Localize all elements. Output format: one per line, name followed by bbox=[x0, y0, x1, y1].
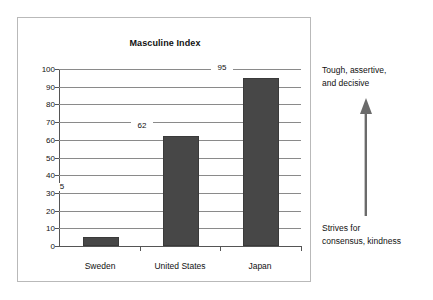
category-label-united-states: United States bbox=[140, 261, 220, 271]
annotation-bottom-text: Strives for consensus, kindness bbox=[322, 222, 430, 248]
up-arrow-icon bbox=[358, 98, 374, 216]
annotation-top-text: Tough, assertive, and decisive bbox=[322, 64, 430, 90]
bar-value-united-states: 62 bbox=[131, 122, 153, 130]
plot-area bbox=[59, 69, 301, 246]
x-tick-mark bbox=[220, 247, 221, 251]
y-tick-label: 90 bbox=[29, 84, 55, 92]
x-tick-mark bbox=[140, 247, 141, 251]
chart-frame: Masculine Index 100 90 80 70 60 50 40 30… bbox=[17, 17, 311, 282]
y-tick-label: 60 bbox=[29, 137, 55, 145]
y-tick-label: 40 bbox=[29, 172, 55, 180]
x-tick-mark bbox=[301, 247, 302, 251]
y-tick-label: 20 bbox=[29, 208, 55, 216]
category-label-sweden: Sweden bbox=[60, 261, 140, 271]
y-tick-label: 80 bbox=[29, 101, 55, 109]
annotation-top-line-1: Tough, assertive, bbox=[322, 64, 430, 77]
y-tick-label: 70 bbox=[29, 119, 55, 127]
annotation-top-line-2: and decisive bbox=[322, 77, 430, 90]
x-axis-line bbox=[59, 246, 302, 247]
annotation-bottom-line-2: consensus, kindness bbox=[322, 235, 430, 248]
y-axis-tick-labels: 100 90 80 70 60 50 40 30 20 10 0 bbox=[26, 18, 55, 283]
bar-japan bbox=[243, 78, 279, 246]
y-tick-label: 10 bbox=[29, 225, 55, 233]
category-label-japan: Japan bbox=[220, 261, 300, 271]
gridline bbox=[59, 69, 301, 70]
bar-value-sweden: 5 bbox=[51, 183, 73, 191]
y-tick-label: 100 bbox=[29, 66, 55, 74]
annotation-bottom-line-1: Strives for bbox=[322, 222, 430, 235]
bar-united-states bbox=[163, 136, 199, 246]
bar-sweden bbox=[83, 237, 119, 246]
annotation-panel: Tough, assertive, and decisive Strives f… bbox=[322, 0, 433, 300]
y-tick-label: 50 bbox=[29, 155, 55, 163]
bar-value-japan: 95 bbox=[211, 64, 233, 72]
chart-title: Masculine Index bbox=[18, 38, 312, 48]
y-tick-label: 30 bbox=[29, 190, 55, 198]
y-tick-label: 0 bbox=[29, 243, 55, 251]
